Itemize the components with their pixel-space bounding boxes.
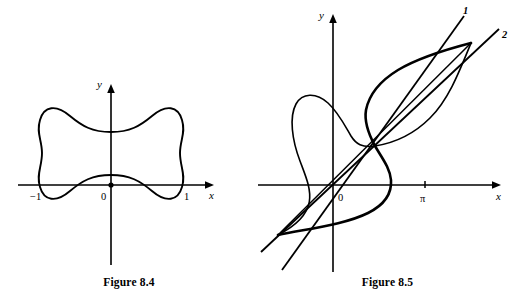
origin-dot <box>108 182 113 187</box>
x-tick-label-one: 1 <box>184 191 189 202</box>
figure-8-4-plot: −1 0 1 x y <box>0 0 258 276</box>
x-tick-label-pi: π <box>420 193 426 204</box>
origin-label: 0 <box>101 191 106 202</box>
x-axis-arrowhead <box>205 181 214 189</box>
y-axis-label: y <box>318 9 324 21</box>
figure-8-5-caption: Figure 8.5 <box>258 276 517 288</box>
figure-8-5-panel: 1 2 0 π x y Figure 8.5 <box>258 0 517 303</box>
figure-8-4-caption: Figure 8.4 <box>0 276 258 288</box>
figure-8-5-plot: 1 2 0 π x y <box>258 0 517 276</box>
lower-node <box>277 234 279 236</box>
curve-label-1: 1 <box>463 5 468 16</box>
origin-label: 0 <box>338 192 343 203</box>
x-axis-arrowhead <box>492 181 501 189</box>
x-axis-label: x <box>208 189 214 201</box>
y-axis-group <box>329 14 337 272</box>
diagonal-chord <box>278 43 471 235</box>
curve-label-2: 2 <box>501 29 508 40</box>
figure-8-4-panel: −1 0 1 x y Figure 8.4 <box>0 0 258 303</box>
y-axis-label: y <box>96 78 102 90</box>
upper-node <box>470 42 472 44</box>
x-axis-group <box>258 181 501 189</box>
x-axis-group <box>18 181 214 189</box>
x-axis-label: x <box>495 190 501 202</box>
x-tick-label-minus-one: −1 <box>30 191 41 202</box>
middle-node <box>374 145 376 147</box>
y-axis-arrowhead <box>107 84 115 93</box>
y-axis-arrowhead <box>329 14 337 23</box>
